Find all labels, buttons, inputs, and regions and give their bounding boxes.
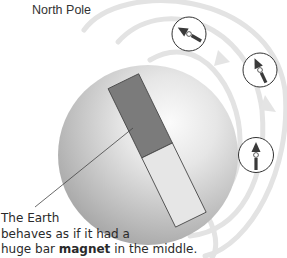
caption-line-3: huge bar magnet in the middle. [1, 242, 197, 258]
caption-emphasis: magnet [59, 242, 111, 256]
compass-top [172, 17, 206, 51]
compass-bottom [239, 138, 274, 173]
arrow-icon [214, 50, 230, 66]
caption-text: in the middle. [110, 242, 197, 256]
compass-middle [243, 53, 277, 87]
arrow-icon [260, 95, 276, 112]
caption: The Earth behaves as if it had a huge ba… [1, 211, 197, 258]
caption-text: huge bar [1, 242, 59, 256]
north-pole-label: North Pole [32, 3, 91, 18]
caption-line-1: The Earth [1, 211, 197, 227]
caption-line-2: behaves as if it had a [1, 227, 197, 243]
